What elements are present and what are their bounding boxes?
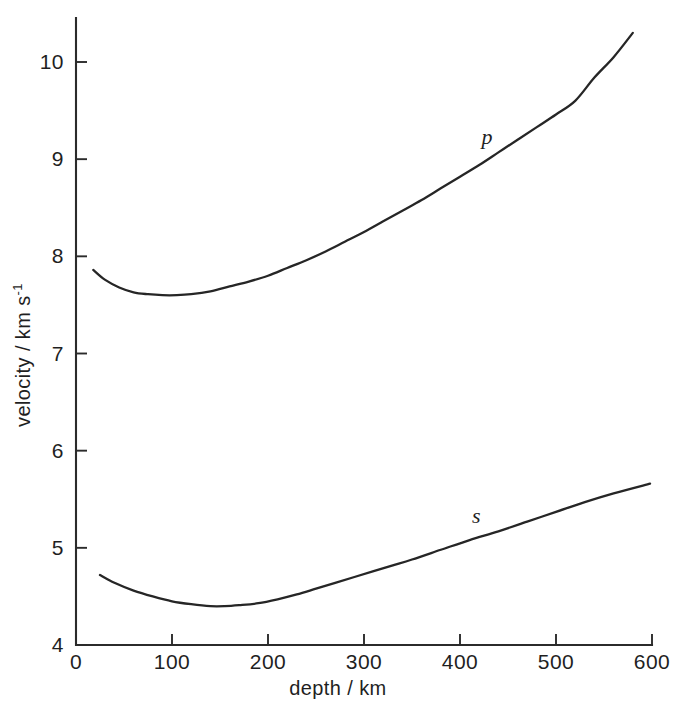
series-label-p: p [479,124,492,149]
data-curves [93,33,650,606]
y-tick-label-4: 4 [52,633,64,656]
x-tick-label-600: 600 [634,650,671,673]
y-tick-label-8: 8 [52,244,64,267]
y-tick-label-7: 7 [52,342,64,365]
series-label-s: s [472,503,481,528]
y-tick-label-9: 9 [52,147,64,170]
x-tick-label-400: 400 [442,650,479,673]
x-tick-label-200: 200 [250,650,287,673]
y-tick-label-10: 10 [40,50,64,73]
tick-labels: 456789100100200300400500600 [40,50,671,673]
seismic-velocity-figure: 456789100100200300400500600 ps depth / k… [0,0,684,712]
curve-s [100,484,650,607]
y-axis-title: velocity / km s-1 [10,283,34,427]
axis-spine [76,18,652,645]
x-tick-label-0: 0 [70,650,82,673]
x-tick-label-100: 100 [154,650,191,673]
series-annotations: ps [472,124,492,528]
axes [76,18,652,645]
y-tick-label-5: 5 [52,536,64,559]
y-tick-label-6: 6 [52,439,64,462]
y-axis-title-exponent: -1 [10,283,25,295]
tick-marks [76,62,652,645]
x-axis-title: depth / km [289,677,386,699]
plot-area: 456789100100200300400500600 ps depth / k… [0,0,684,712]
x-tick-label-500: 500 [538,650,575,673]
curve-p [93,33,633,295]
x-tick-label-300: 300 [346,650,383,673]
y-axis-title-group: velocity / km s-1 [10,283,34,427]
y-axis-title-main: velocity / km s [12,295,34,427]
